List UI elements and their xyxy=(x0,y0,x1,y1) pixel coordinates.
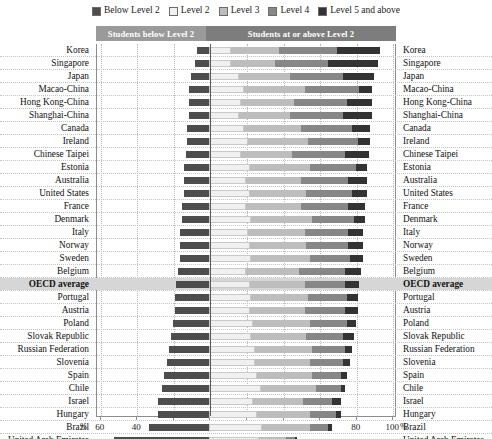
country-label-left: Australia xyxy=(0,174,93,187)
legend-label: Level 2 xyxy=(181,6,210,16)
bar-segment-level-2 xyxy=(209,190,249,197)
country-label-left: Russian Federation xyxy=(0,343,93,356)
country-label-left: United States xyxy=(0,187,93,200)
chart-row: Shanghai-ChinaShanghai-China xyxy=(0,109,492,122)
chart-row: KoreaKorea xyxy=(0,44,492,57)
legend-label: Below Level 2 xyxy=(104,6,160,16)
legend-item: Level 5 and above xyxy=(318,6,400,16)
legend-swatch-icon xyxy=(219,7,228,16)
country-label-left: Estonia xyxy=(0,161,93,174)
bar-segment-below-level2 xyxy=(191,73,209,80)
stacked-bar xyxy=(96,216,396,223)
bar-segment-below-level2 xyxy=(176,281,209,288)
bar-segment-level-3 xyxy=(257,411,310,418)
bar-segment-level-5-and-above xyxy=(348,203,364,210)
country-label-left: France xyxy=(0,200,93,213)
country-label-left: Israel xyxy=(0,395,93,408)
country-label-left: Poland xyxy=(0,317,93,330)
country-label-right: Spain xyxy=(399,369,492,382)
chart-row: FranceFrance xyxy=(0,200,492,213)
bar-segment-level-5-and-above xyxy=(345,307,358,314)
bar-segment-level-5-and-above xyxy=(345,151,369,158)
chart-row: SingaporeSingapore xyxy=(0,57,492,70)
country-label-right: Austria xyxy=(399,304,492,317)
bar-segment-below-level2 xyxy=(180,229,209,236)
bar-segment-below-level2 xyxy=(189,86,209,93)
country-label-left: Korea xyxy=(0,44,93,57)
country-label-left: Sweden xyxy=(0,252,93,265)
bar-segment-level-5-and-above xyxy=(345,346,352,353)
bar-segment-level-5-and-above xyxy=(343,333,354,340)
bar-segment-level-4 xyxy=(299,268,345,275)
stacked-bar xyxy=(96,164,396,171)
bar-segment-level-4 xyxy=(310,411,336,418)
bar-segment-level-5-and-above xyxy=(341,372,346,379)
bar-segment-level-2 xyxy=(209,255,251,262)
chart-row: PolandPoland xyxy=(0,317,492,330)
stacked-bar xyxy=(96,242,396,249)
bar-segment-level-4 xyxy=(292,151,345,158)
bar-segment-level-3 xyxy=(239,112,290,119)
legend-swatch-icon xyxy=(169,7,178,16)
country-label-right: United Arab Emirates xyxy=(399,434,492,439)
legend-item: Below Level 2 xyxy=(92,6,160,16)
stacked-bar xyxy=(96,333,396,340)
bar-segment-level-2 xyxy=(209,229,247,236)
country-label-right: Russian Federation xyxy=(399,343,492,356)
bar-segment-level-5-and-above xyxy=(345,281,360,288)
stacked-bar xyxy=(96,411,396,418)
chart-row: NorwayNorway xyxy=(0,239,492,252)
bar-segment-level-2 xyxy=(209,112,238,119)
stacked-bar xyxy=(96,281,396,288)
bar-segment-below-level2 xyxy=(184,164,210,171)
country-label-right: Japan xyxy=(399,70,492,83)
stacked-bar xyxy=(96,424,396,431)
bar-segment-level-4 xyxy=(316,385,342,392)
bar-segment-level-4 xyxy=(290,112,343,119)
country-label-left: Brazil xyxy=(0,421,93,434)
country-label-right: Slovenia xyxy=(399,356,492,369)
chart-row: OECD averageOECD average xyxy=(0,278,492,291)
stacked-bar xyxy=(96,229,396,236)
bar-segment-level-2 xyxy=(209,164,249,171)
bar-segment-level-5-and-above xyxy=(347,99,373,106)
country-label-right: Ireland xyxy=(399,135,492,148)
country-label-right: Hong Kong-China xyxy=(399,96,492,109)
bar-segment-level-5-and-above xyxy=(359,86,372,93)
chart-rows: KoreaKoreaSingaporeSingaporeJapanJapanMa… xyxy=(0,44,492,439)
bar-segment-level-4 xyxy=(303,398,332,405)
bar-segment-level-4 xyxy=(290,73,343,80)
bar-segment-level-2 xyxy=(209,151,240,158)
legend-swatch-icon xyxy=(268,7,277,16)
bar-segment-level-4 xyxy=(312,216,354,223)
country-label-right: Australia xyxy=(399,174,492,187)
stacked-bar xyxy=(96,268,396,275)
bar-segment-level-2 xyxy=(209,333,251,340)
chart-legend: Below Level 2Level 2Level 3Level 4Level … xyxy=(0,0,492,22)
country-label-right: Brazil xyxy=(399,421,492,434)
stacked-bar xyxy=(96,177,396,184)
country-label-left: Denmark xyxy=(0,213,93,226)
bar-segment-level-2 xyxy=(209,411,257,418)
bar-segment-level-4 xyxy=(306,190,352,197)
country-label-left: Japan xyxy=(0,70,93,83)
bar-segment-level-5-and-above xyxy=(356,164,367,171)
bar-segment-level-2 xyxy=(209,372,257,379)
stacked-bar xyxy=(96,372,396,379)
bar-segment-level-5-and-above xyxy=(352,190,367,197)
legend-item: Level 2 xyxy=(169,6,210,16)
country-label-right: Norway xyxy=(399,239,492,252)
legend-swatch-icon xyxy=(92,7,101,16)
band-students-below-level2: Students below Level 2 xyxy=(96,26,206,41)
chart-row: DenmarkDenmark xyxy=(0,213,492,226)
country-label-right: Canada xyxy=(399,122,492,135)
chart-row: PortugalPortugal xyxy=(0,291,492,304)
bar-segment-level-4 xyxy=(294,99,347,106)
stacked-bar xyxy=(96,346,396,353)
legend-swatch-icon xyxy=(318,7,327,16)
stacked-bar xyxy=(96,99,396,106)
chart-row: Macao-ChinaMacao-China xyxy=(0,83,492,96)
bar-segment-level-4 xyxy=(301,203,349,210)
bar-segment-below-level2 xyxy=(158,411,209,418)
bar-segment-level-5-and-above xyxy=(343,112,372,119)
